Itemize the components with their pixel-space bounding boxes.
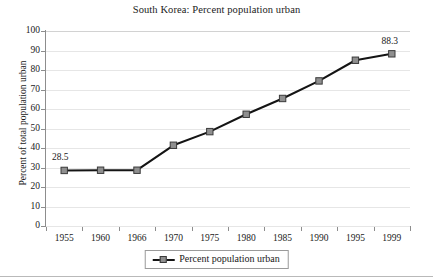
x-axis-tick-label: 1999	[367, 233, 417, 244]
y-axis-tick-mark	[41, 226, 45, 227]
y-axis-tick-label: 20	[0, 182, 40, 192]
y-axis-tick-label: 30	[0, 163, 40, 173]
series-percent-population-urban	[46, 31, 410, 226]
x-axis-tick-mark	[301, 227, 302, 231]
chart-legend[interactable]: Percent population urban	[144, 250, 289, 269]
y-axis-tick-mark	[41, 129, 45, 130]
series-markers	[61, 51, 395, 174]
y-axis-tick-mark	[41, 51, 45, 52]
data-point-label: 88.3	[370, 36, 410, 46]
plot-area: 28.588.3	[46, 31, 410, 226]
data-point-marker	[207, 128, 213, 134]
y-axis-tick-mark	[41, 90, 45, 91]
y-axis-tick-mark	[41, 70, 45, 71]
y-axis-tick-label: 40	[0, 143, 40, 153]
x-axis-tick-mark	[228, 227, 229, 231]
y-axis-tick-label: 60	[0, 104, 40, 114]
x-axis-tick-mark	[374, 227, 375, 231]
x-axis-tick-mark	[337, 227, 338, 231]
y-axis-tick-label: 0	[0, 221, 40, 231]
x-axis-tick-mark	[119, 227, 120, 231]
y-axis-tick-mark	[41, 207, 45, 208]
x-axis-tick-mark	[82, 227, 83, 231]
legend-marker-icon	[152, 255, 174, 264]
y-axis-tick-label: 100	[0, 26, 40, 36]
data-point-marker	[316, 78, 322, 84]
y-axis-tick-mark	[41, 109, 45, 110]
chart-figure: South Korea: Percent population urban Pe…	[0, 0, 433, 277]
y-axis-tick-label: 10	[0, 202, 40, 212]
data-point-marker	[243, 111, 249, 117]
y-axis-tick-label: 50	[0, 124, 40, 134]
data-point-marker	[134, 167, 140, 173]
legend-item-label: Percent population urban	[179, 253, 280, 265]
y-axis-tick-label: 70	[0, 85, 40, 95]
y-axis-tick-mark	[41, 187, 45, 188]
data-point-marker	[61, 167, 67, 173]
x-axis-tick-mark	[192, 227, 193, 231]
x-axis-tick-mark	[410, 227, 411, 231]
data-point-marker	[352, 57, 358, 63]
y-axis-tick-mark	[41, 168, 45, 169]
y-axis-tick-mark	[41, 31, 45, 32]
data-point-marker	[389, 51, 395, 57]
y-axis-tick-label: 80	[0, 65, 40, 75]
x-axis-tick-mark	[46, 227, 47, 231]
data-point-marker	[170, 142, 176, 148]
chart-title: South Korea: Percent population urban	[0, 4, 433, 15]
data-point-marker	[279, 95, 285, 101]
y-axis-tick-label: 90	[0, 46, 40, 56]
series-line	[64, 54, 392, 171]
x-axis-tick-mark	[155, 227, 156, 231]
y-axis-tick-mark	[41, 148, 45, 149]
x-axis-tick-mark	[264, 227, 265, 231]
data-point-marker	[97, 167, 103, 173]
data-point-label: 28.5	[40, 152, 80, 162]
